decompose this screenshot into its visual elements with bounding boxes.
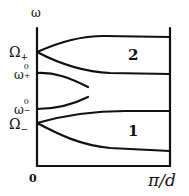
omega-plus-branch <box>37 73 88 87</box>
level-label-omega-plus: Ω+ <box>9 45 28 62</box>
level-label-omega0-minus: ω0− <box>14 102 31 116</box>
y-axis-label: ω <box>31 7 41 19</box>
band-2-upper-curve <box>37 36 170 52</box>
level-label-omega0-plus: ω0+ <box>14 67 31 81</box>
x-end-label: π/d <box>148 172 176 189</box>
band-1-upper-curve <box>37 111 170 123</box>
band-2-label: 2 <box>128 48 138 63</box>
level-label-omega-minus: Ω− <box>9 117 28 134</box>
omega-minus-branch <box>37 97 88 109</box>
band-2-lower-curve <box>37 52 170 74</box>
band-1-label: 1 <box>128 124 138 139</box>
band-1-lower-curve <box>37 123 170 151</box>
x-origin-label: 0 <box>29 173 37 184</box>
